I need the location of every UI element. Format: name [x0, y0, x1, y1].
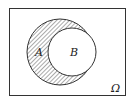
set-b-label: B [69, 46, 78, 59]
universe-label: Ω [110, 82, 120, 95]
venn-diagram: A B Ω [0, 0, 135, 104]
set-a-label: A [34, 46, 43, 59]
